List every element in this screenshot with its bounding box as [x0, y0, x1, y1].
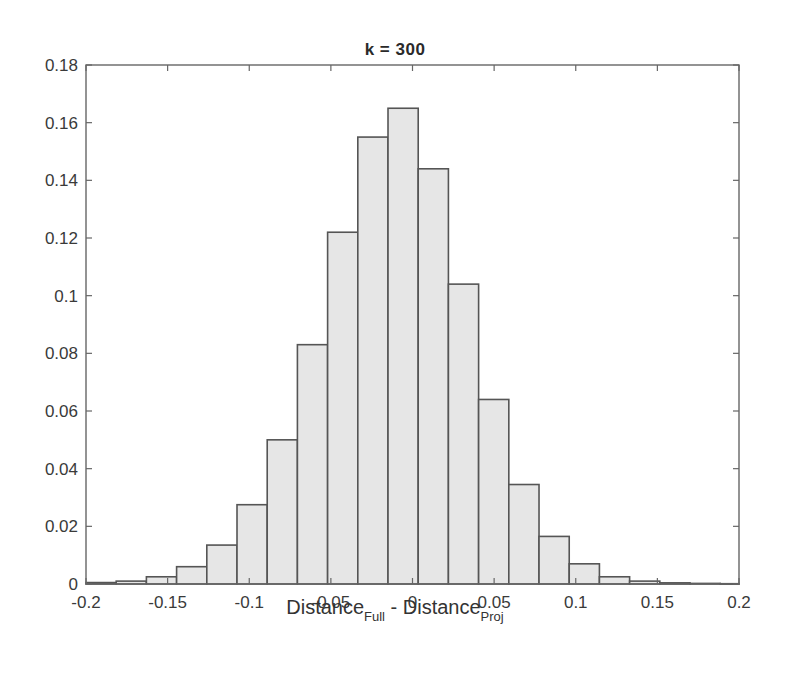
histogram-bar	[297, 345, 327, 584]
x-label-sub-1: Full	[364, 609, 385, 624]
histogram-bar	[569, 564, 599, 584]
histogram-bars	[86, 108, 739, 584]
x-label-main-2: Distance	[403, 596, 481, 618]
histogram-bar	[237, 505, 267, 584]
x-label-separator: -	[385, 596, 403, 618]
y-tick-label: 0.14	[45, 171, 78, 190]
histogram-bar	[448, 284, 478, 584]
x-label-sub-2: Proj	[481, 609, 504, 624]
histogram-chart: -0.2-0.15-0.1-0.0500.050.10.150.2 00.020…	[0, 0, 790, 674]
histogram-bar	[358, 137, 388, 584]
histogram-bar	[479, 399, 509, 584]
histogram-bar	[328, 232, 358, 584]
y-tick-label: 0.06	[45, 402, 78, 421]
y-tick-label: 0.1	[54, 287, 78, 306]
x-axis-label: DistanceFull - DistanceProj	[0, 596, 790, 624]
histogram-bar	[418, 169, 448, 584]
histogram-bar	[146, 577, 176, 584]
histogram-bar	[207, 545, 237, 584]
y-tick-label: 0.12	[45, 229, 78, 248]
y-tick-label: 0	[69, 575, 78, 594]
histogram-bar	[509, 485, 539, 584]
histogram-bar	[599, 577, 629, 584]
histogram-bar	[388, 108, 418, 584]
y-tick-label: 0.08	[45, 344, 78, 363]
y-tick-label: 0.18	[45, 56, 78, 75]
x-label-main-1: Distance	[286, 596, 364, 618]
y-tick-label: 0.02	[45, 517, 78, 536]
histogram-bar	[267, 440, 297, 584]
y-tick-label: 0.16	[45, 114, 78, 133]
histogram-bar	[177, 567, 207, 584]
y-tick-label: 0.04	[45, 460, 78, 479]
histogram-bar	[539, 536, 569, 584]
